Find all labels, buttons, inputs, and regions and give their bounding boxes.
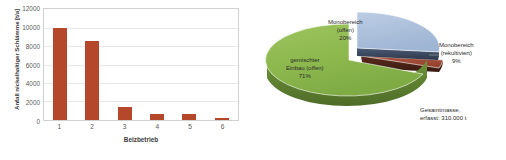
y-tick-label: 12000 (22, 5, 40, 12)
bar-chart-y-axis-ticks: 12000 10000 8000 6000 4000 2000 0 (14, 8, 40, 121)
pie-annotation-gesamtmasse: Gesamtmasse, erfasst: 310.000 t (420, 106, 466, 122)
pie-label-line1: Monobereich (439, 42, 474, 48)
y-tick-label: 6000 (26, 61, 40, 68)
x-tick-label: 6 (206, 123, 239, 130)
bar-slot (76, 9, 108, 120)
pie-label-monobereich-rekultiviert: Monobereich (rekultiviert) 9% (439, 41, 474, 65)
bar (215, 118, 229, 120)
y-tick-label: 0 (36, 118, 40, 125)
bar-slot (141, 9, 173, 120)
pie-label-monobereich-offen: Monobereich (offen) 20% (328, 18, 363, 42)
bar (53, 28, 67, 121)
bar-slot (109, 9, 141, 120)
y-tick-label: 4000 (26, 80, 40, 87)
pie-label-percent: 9% (439, 57, 474, 65)
bar-chart-plot-area (43, 8, 239, 121)
pie-label-line2: (offen) (337, 27, 354, 33)
y-tick-label: 10000 (22, 23, 40, 30)
pie-slice-top (357, 12, 440, 52)
bar-chart: Anfall nickelhaltiger Schlämme [t/a] 120… (0, 0, 253, 160)
bar-slot (173, 9, 205, 120)
pie-label-line1: gemischter (290, 57, 319, 63)
pie-annotation-line2: erfasst: 310.000 t (420, 115, 466, 121)
figure-two-charts: Anfall nickelhaltiger Schlämme [t/a] 120… (0, 0, 506, 160)
pie-label-line2: Einbau (offen) (286, 65, 324, 71)
y-tick-label: 2000 (26, 99, 40, 106)
pie-label-percent: 20% (328, 34, 363, 42)
pie-label-gemischter-einbau: gemischter Einbau (offen) 71% (286, 56, 324, 80)
bar-chart-x-axis-ticks: 1 2 3 4 5 6 (43, 123, 239, 130)
bar (150, 114, 164, 120)
bar (182, 114, 196, 120)
bar-series (44, 9, 238, 120)
y-tick-label: 8000 (26, 42, 40, 49)
bar-slot (206, 9, 238, 120)
pie-annotation-line1: Gesamtmasse, (420, 107, 460, 113)
x-tick-label: 5 (174, 123, 207, 130)
bar-chart-x-axis-title: Beizbetrieb (43, 136, 239, 143)
pie-chart: Monobereich (offen) 20% gemischter Einba… (253, 0, 506, 160)
bar (85, 41, 99, 120)
pie-label-line1: Monobereich (328, 19, 363, 25)
x-tick-label: 3 (108, 123, 141, 130)
bar-slot (44, 9, 76, 120)
x-tick-label: 4 (141, 123, 174, 130)
x-tick-label: 1 (43, 123, 76, 130)
pie-label-line2: (rekultiviert) (441, 50, 472, 56)
x-tick-label: 2 (76, 123, 109, 130)
pie-label-percent: 71% (286, 72, 324, 80)
pie-slice-monobereich-offen (357, 12, 440, 60)
bar (118, 107, 132, 120)
